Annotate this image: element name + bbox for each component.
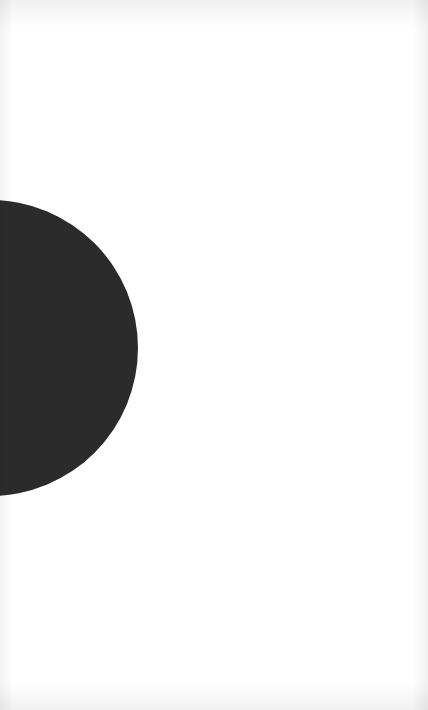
dark-half-circle-shape [0, 200, 138, 496]
blank-page [0, 0, 428, 710]
